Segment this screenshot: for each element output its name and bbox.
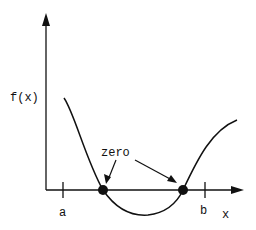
zero-annotation-label: zero [101, 146, 130, 160]
y-axis-label: f(x) [10, 91, 39, 105]
x-axis-label: x [222, 208, 229, 222]
x-axis [46, 182, 244, 198]
annotation-arrow-2 [135, 160, 172, 180]
root-marker-2 [178, 185, 188, 195]
root-marker-1 [98, 185, 108, 195]
y-axis-arrow-icon [42, 13, 50, 26]
y-axis [42, 13, 50, 190]
root-finding-diagram: f(x) zero a b x [0, 0, 256, 230]
x-axis-arrow-icon [231, 186, 244, 194]
interval-start-label: a [59, 206, 66, 220]
interval-end-label: b [200, 204, 207, 218]
function-curve [64, 98, 237, 215]
annotation-arrowhead-2-icon [167, 175, 177, 183]
